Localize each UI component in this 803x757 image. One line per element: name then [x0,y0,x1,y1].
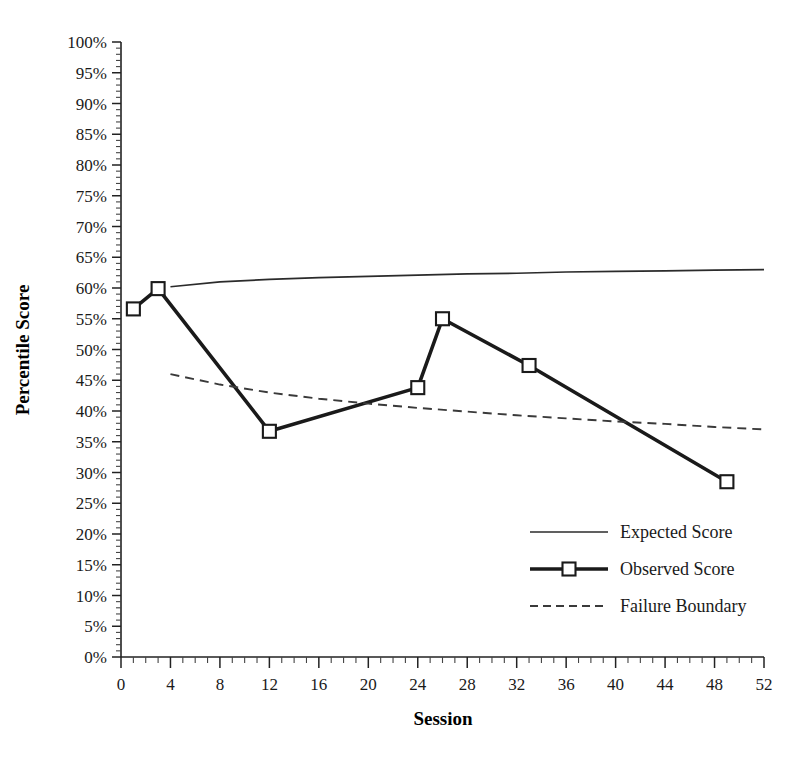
y-axis-tick-label: 70% [76,218,107,237]
x-axis-tick-label: 40 [607,675,624,694]
x-axis-tick-label: 4 [166,675,175,694]
y-axis-tick-label: 5% [84,617,107,636]
y-axis-tick-label: 85% [76,125,107,144]
x-axis-tick-label: 12 [261,675,278,694]
y-axis-tick-label: 20% [76,525,107,544]
y-axis-tick-label: 40% [76,402,107,421]
legend-item-label: Observed Score [620,559,734,579]
y-axis-tick-label: 100% [67,33,107,52]
legend-swatch-marker [563,563,576,576]
x-axis-tick-label: 36 [558,675,575,694]
y-axis-tick-label: 55% [76,310,107,329]
y-axis-tick-label: 45% [76,371,107,390]
y-axis-title: Percentile Score [12,285,33,416]
data-point-marker [263,425,276,438]
percentile-score-line-chart: 0%5%10%15%20%25%30%35%40%45%50%55%60%65%… [0,0,803,757]
y-axis-tick-label: 10% [76,587,107,606]
y-axis-tick-label: 95% [76,64,107,83]
y-axis-tick-label: 65% [76,248,107,267]
x-axis-tick-label: 20 [360,675,377,694]
y-axis-tick-label: 15% [76,556,107,575]
x-axis-tick-label: 8 [216,675,225,694]
y-axis-tick-label: 90% [76,95,107,114]
x-axis-tick-label: 28 [459,675,476,694]
chart-container: 0%5%10%15%20%25%30%35%40%45%50%55%60%65%… [0,0,803,757]
x-axis-tick-label: 0 [117,675,126,694]
x-axis-tick-label: 32 [508,675,525,694]
y-axis-tick-label: 25% [76,494,107,513]
y-axis-tick-label: 50% [76,341,107,360]
data-point-marker [720,475,733,488]
data-point-marker [436,312,449,325]
data-point-marker [152,282,165,295]
x-axis-tick-label: 24 [409,675,427,694]
data-point-marker [523,359,536,372]
x-axis-title: Session [413,708,473,729]
x-axis-tick-label: 16 [310,675,327,694]
x-axis-tick-label: 52 [756,675,773,694]
y-axis-tick-label: 75% [76,187,107,206]
data-point-marker [127,302,140,315]
data-point-marker [411,381,424,394]
x-axis-tick-label: 48 [706,675,723,694]
x-axis-tick-label: 44 [657,675,675,694]
y-axis-tick-label: 0% [84,648,107,667]
y-axis-tick-label: 80% [76,156,107,175]
legend-item-label: Failure Boundary [620,596,746,616]
legend-item-label: Expected Score [620,522,732,542]
y-axis-tick-label: 30% [76,464,107,483]
y-axis-tick-label: 35% [76,433,107,452]
y-axis-tick-label: 60% [76,279,107,298]
